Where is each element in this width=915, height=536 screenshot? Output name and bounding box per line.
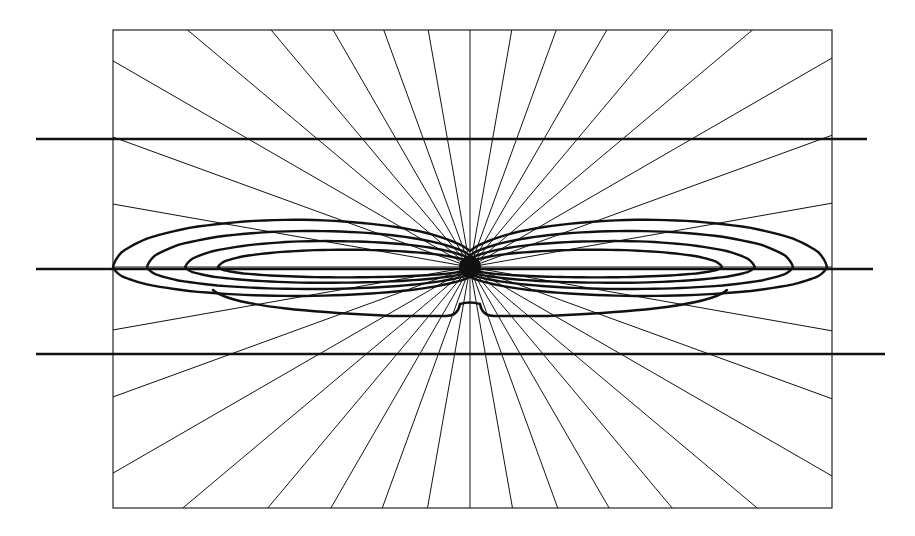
polar-pattern-figure — [0, 0, 915, 536]
polar-plot-canvas — [0, 0, 915, 536]
origin-marker — [459, 256, 481, 278]
